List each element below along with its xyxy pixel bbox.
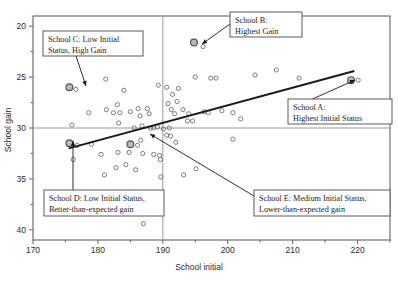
scatter-point [111,111,115,115]
x-tick-label: 180 [91,245,105,255]
scatter-point [124,163,128,167]
scatter-point [147,112,151,116]
callout-school-a-line: School A: [293,103,326,112]
scatter-point [274,68,278,72]
callout-school-a: School A:Highest Initial Status [288,99,392,124]
scatter-point [115,102,119,106]
scatter-point [152,152,156,156]
scatter-point [166,101,170,105]
y-tick-label: 20 [17,21,27,31]
scatter-point [116,150,120,154]
scatter-point [174,140,178,144]
scatter-point [194,167,198,171]
scatter-point [138,114,142,118]
callout-school-a-line: Highest Initial Status [293,114,362,123]
x-tick-label: 210 [286,245,300,255]
scatter-point [181,108,185,112]
y-tick-label: 25 [17,72,27,82]
callout-school-e-leader [150,134,254,196]
scatter-point [141,222,145,226]
scatter-point [175,99,179,103]
scatter-point [114,166,118,170]
scatter-plot: School C: Low InitialStatus, High GainSc… [0,0,398,282]
scatter-point [74,87,78,91]
scatter-point [156,83,160,87]
scatter-point [169,134,173,138]
scatter-point [136,107,140,111]
callout-school-d-line: School D: Low Initial Status, [49,194,145,203]
scatter-point [70,123,74,127]
scatter-point [104,77,108,81]
scatter-point [239,117,243,121]
callout-school-e-line: Lower-than-expected gain [259,205,345,214]
callout-school-c: School C: Low InitialStatus, High Gain [43,31,143,56]
callout-school-b: School B:Highest Gain [230,12,302,37]
callout-school-b-arrowhead [202,39,207,44]
scatter-point [231,137,235,141]
y-axis-title: School gain [3,108,13,153]
scatter-point [87,111,91,115]
chart-container: School C: Low InitialStatus, High GainSc… [0,0,398,282]
callout-school-d-line: Better-than-expected gain [49,205,134,214]
highlighted-school-point [127,141,134,148]
scatter-point [214,76,218,80]
highlighted-school-point [66,84,73,91]
x-tick-label: 220 [350,245,364,255]
y-tick-label: 40 [17,225,27,235]
callout-school-b-line: School B: [235,16,268,25]
scatter-point [158,157,162,161]
scatter-point [176,86,180,90]
scatter-point [297,76,301,80]
scatter-point [122,88,126,92]
scatter-point [102,173,106,177]
scatter-point [117,121,121,125]
scatter-point [356,78,360,82]
callout-school-d: School D: Low Initial Status,Better-than… [44,190,164,216]
scatter-point [253,73,257,77]
scatter-point [170,92,174,96]
callout-school-c-line: School C: Low Initial [48,35,120,44]
scatter-point [185,119,189,123]
callout-school-c-arrowhead [82,81,86,86]
scatter-point [99,152,103,156]
y-tick-label: 30 [17,123,27,133]
scatter-point [128,110,132,114]
scatter-point [141,151,145,155]
scatter-point [157,153,161,157]
scatter-point [127,150,131,154]
callout-school-e-line: School E: Medium Initial Status, [259,194,367,203]
scatter-point [139,138,143,142]
scatter-point [172,112,176,116]
x-axis-title: School initial [175,262,223,272]
callout-school-b-line: Highest Gain [235,27,278,36]
scatter-point [209,76,213,80]
scatter-point [181,173,185,177]
scatter-point [104,108,108,112]
scatter-point [193,75,197,79]
scatter-point [220,109,224,113]
highlighted-school-point [191,39,198,46]
scatter-point [165,85,169,89]
x-tick-label: 190 [156,245,170,255]
scatter-point [231,111,235,115]
scatter-point [133,168,137,172]
scatter-point [169,108,173,112]
scatter-point [135,143,139,147]
callout-school-b-leader [202,24,230,44]
y-tick-label: 35 [17,174,27,184]
callout-school-c-line: Status, High Gain [48,46,106,55]
scatter-point [118,111,122,115]
x-tick-label: 200 [221,245,235,255]
scatter-point [201,44,205,48]
scatter-point [191,119,195,123]
callout-boxes-group: School C: Low InitialStatus, High GainSc… [43,12,392,216]
callout-school-e: School E: Medium Initial Status,Lower-th… [254,190,390,216]
x-tick-label: 170 [26,245,40,255]
scatter-point [145,107,149,111]
